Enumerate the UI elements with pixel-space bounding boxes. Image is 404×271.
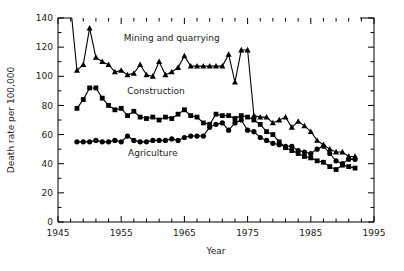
data-point-circle [175, 138, 180, 143]
data-point-circle [226, 128, 231, 133]
data-point-circle [340, 161, 345, 166]
data-point-square [188, 113, 193, 118]
line-chart-svg: 0204060801001201401945195519651975198519… [0, 0, 404, 271]
x-tick-label: 1985 [299, 228, 322, 238]
data-point-triangle [68, 3, 74, 9]
series-annotation: Construction [127, 86, 184, 96]
x-tick-label: 1955 [110, 228, 133, 238]
data-point-circle [315, 147, 320, 152]
data-point-circle [194, 133, 199, 138]
data-point-square [195, 115, 200, 120]
data-point-square [252, 118, 257, 123]
data-point-square [138, 115, 143, 120]
data-point-square [346, 164, 351, 169]
data-point-triangle [99, 59, 105, 65]
data-point-square [75, 106, 80, 111]
data-point-square [157, 118, 162, 123]
data-point-square [81, 97, 86, 102]
data-point-square [125, 113, 130, 118]
data-point-square [308, 155, 313, 160]
x-tick-label: 1945 [47, 228, 70, 238]
data-point-circle [302, 149, 307, 154]
data-point-square [144, 116, 149, 121]
data-point-circle [157, 138, 162, 143]
data-point-triangle [87, 25, 93, 31]
data-point-circle [207, 125, 212, 130]
data-point-square [163, 115, 168, 120]
data-point-square [353, 166, 358, 171]
data-point-circle [308, 151, 313, 156]
data-point-square [334, 167, 339, 172]
data-point-circle [258, 135, 263, 140]
data-point-triangle [169, 69, 175, 75]
data-point-circle [220, 120, 225, 125]
data-point-circle [251, 129, 256, 134]
data-point-circle [321, 144, 326, 149]
data-point-circle [87, 139, 92, 144]
x-axis-title: Year [205, 246, 225, 256]
data-point-circle [81, 139, 86, 144]
data-point-circle [182, 135, 187, 140]
data-point-circle [131, 138, 136, 143]
data-point-circle [125, 133, 130, 138]
data-point-triangle [156, 59, 162, 65]
data-point-circle [327, 151, 332, 156]
y-tick-label: 40 [42, 159, 54, 169]
data-point-square [176, 112, 181, 117]
y-tick-label: 120 [36, 42, 53, 52]
data-point-circle [188, 133, 193, 138]
data-point-circle [239, 117, 244, 122]
series-annotation: Mining and quarrying [124, 33, 220, 43]
data-point-square [214, 112, 219, 117]
data-point-circle [138, 139, 143, 144]
data-point-circle [100, 139, 105, 144]
axis-frame-corners [58, 18, 374, 222]
data-point-square [201, 121, 206, 126]
data-point-square [100, 96, 105, 101]
data-point-circle [264, 138, 269, 143]
data-point-square [258, 122, 263, 127]
data-point-triangle [93, 54, 99, 60]
x-tick-label: 1995 [363, 228, 386, 238]
data-point-circle [289, 144, 294, 149]
data-point-square [106, 103, 111, 108]
data-point-triangle [175, 64, 181, 70]
data-point-square [112, 107, 117, 112]
data-point-circle [245, 128, 250, 133]
data-point-square [169, 116, 174, 121]
data-point-triangle [181, 53, 187, 59]
data-point-circle [74, 139, 79, 144]
data-point-circle [232, 120, 237, 125]
y-tick-label: 100 [36, 71, 53, 81]
data-point-triangle [232, 79, 238, 85]
data-point-square [119, 106, 124, 111]
axis-frame [58, 18, 374, 222]
data-point-triangle [80, 61, 86, 67]
data-point-triangle [251, 112, 257, 118]
data-point-square [239, 113, 244, 118]
y-tick-label: 20 [42, 188, 54, 198]
data-point-circle [112, 138, 117, 143]
series-line [77, 88, 355, 170]
data-point-square [94, 86, 99, 91]
series-mining-and-quarrying [68, 3, 358, 159]
data-point-triangle [118, 67, 124, 73]
data-point-square [264, 129, 269, 134]
x-tick-label: 1965 [173, 228, 196, 238]
data-point-square [226, 113, 231, 118]
data-point-square [315, 158, 320, 163]
data-point-circle [106, 139, 111, 144]
data-point-square [289, 148, 294, 153]
data-point-square [182, 107, 187, 112]
data-point-circle [163, 138, 168, 143]
series-annotation: Agriculture [128, 148, 178, 158]
data-point-square [302, 154, 307, 159]
data-point-circle [352, 157, 357, 162]
data-point-circle [213, 122, 218, 127]
y-tick-label: 60 [42, 130, 54, 140]
data-point-square [131, 109, 136, 114]
data-point-triangle [301, 123, 307, 129]
data-point-circle [144, 139, 149, 144]
data-point-circle [283, 144, 288, 149]
y-tick-label: 140 [36, 13, 53, 23]
